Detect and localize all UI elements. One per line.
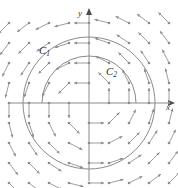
vector-arrow-tail-dot [8, 22, 11, 25]
vector-arrow-head [74, 22, 77, 25]
vector-arrow [117, 35, 131, 45]
y-axis-arrowhead [86, 8, 92, 15]
vector-arrow-tail-dot [28, 22, 31, 25]
vector-arrow [54, 22, 70, 28]
vector-arrow-tail-dot [68, 182, 71, 185]
vector-arrow [21, 62, 31, 76]
vector-arrow [74, 22, 90, 25]
vector-arrow [8, 142, 16, 157]
vector-arrow-tail-dot [48, 22, 51, 25]
vector-arrow-shaft [169, 172, 178, 183]
vector-arrow-shaft [0, 23, 9, 34]
vector-arrow [138, 32, 150, 44]
vector-arrow [160, 31, 170, 44]
vector-arrow [128, 155, 142, 165]
axes-layer [8, 8, 175, 181]
vector-arrow-tail-dot [108, 82, 111, 85]
vector-arrow [68, 142, 83, 150]
vector-arrow [74, 82, 90, 85]
vector-arrow-tail-dot [48, 122, 51, 125]
vector-arrow [24, 82, 30, 98]
vector-arrow-tail-dot [148, 62, 151, 65]
vector-arrow [141, 51, 151, 65]
vector-arrow-tail-dot [128, 62, 131, 65]
curve-label-c2-subscript: 2 [113, 70, 117, 79]
vector-arrow-tail-dot [168, 42, 171, 45]
vector-arrow-tail-dot [28, 42, 31, 45]
vector-arrow [108, 88, 111, 104]
vector-arrow-tail-dot [28, 162, 31, 165]
vector-arrow-tail-dot [88, 62, 91, 65]
vector-arrow-tail-dot [128, 142, 131, 145]
vector-arrow [168, 151, 178, 164]
vector-arrow-tail-dot [88, 162, 91, 165]
vector-arrow [28, 182, 41, 188]
vector-arrow-tail-dot [68, 42, 71, 45]
vector-arrow-head [95, 38, 98, 41]
vector-arrow-head [74, 42, 77, 45]
vector-arrow [168, 172, 178, 184]
vector-arrow [95, 38, 111, 44]
vector-arrow-tail-dot [68, 142, 71, 145]
vector-arrow-tail-dot [108, 182, 111, 185]
vector-arrow [36, 22, 51, 30]
vector-arrow [48, 162, 62, 172]
vector-arrow-tail-dot [148, 182, 151, 185]
vector-arrow-tail-dot [148, 122, 151, 125]
vector-arrow-tail-dot [128, 102, 131, 105]
vector-arrow-tail-dot [148, 102, 151, 105]
vector-arrow-tail-dot [28, 82, 31, 85]
vector-field-canvas [0, 0, 178, 188]
vector-arrow-head [151, 109, 154, 112]
vector-arrow-tail-dot [28, 102, 31, 105]
vector-arrow-tail-dot [68, 102, 71, 105]
vector-arrow-tail-dot [108, 122, 111, 125]
vector-arrow [5, 82, 11, 98]
vector-field-figure: y x C1 C2 [0, 0, 178, 188]
vector-arrow-tail-dot [108, 142, 111, 145]
vector-arrow [0, 22, 10, 34]
vector-arrow-head [68, 115, 71, 118]
vector-arrow-tail-dot [88, 122, 91, 125]
vector-arrow [168, 130, 176, 145]
vector-arrow [8, 182, 20, 188]
vector-arrow [68, 122, 80, 134]
vector-arrow-tail-dot [28, 62, 31, 65]
vector-arrow-tail-dot [8, 82, 11, 85]
vector-arrow [8, 162, 18, 175]
vector-arrow [48, 102, 51, 118]
vector-arrow-shaft [49, 183, 62, 188]
vector-arrow-head [8, 115, 11, 118]
vector-arrow [88, 122, 104, 125]
x-axis-label: x [166, 103, 170, 112]
vector-arrow-tail-dot [88, 142, 91, 145]
vector-arrow-tail-dot [108, 22, 111, 25]
vector-arrow-tail-dot [108, 62, 111, 65]
vector-arrow-tail-dot [148, 82, 151, 85]
vector-arrow [48, 182, 63, 188]
vector-arrow-head [74, 82, 77, 85]
vector-arrow-tail-dot [28, 142, 31, 145]
vector-arrow-tail-dot [168, 22, 171, 25]
vector-arrow-tail-dot [148, 162, 151, 165]
vector-arrow [128, 176, 143, 184]
vector-arrow-tail-dot [148, 142, 151, 145]
vector-arrow-tail-dot [128, 182, 131, 185]
vector-arrow [58, 82, 70, 94]
vector-arrow-head [48, 115, 51, 118]
vector-arrow [137, 14, 150, 24]
vector-arrow-tail-dot [8, 182, 11, 185]
vector-arrow-head [168, 88, 171, 91]
vector-arrow-tail-dot [68, 162, 71, 165]
vector-arrow [8, 122, 14, 138]
vector-arrow-tail-dot [168, 122, 171, 125]
vector-arrow-tail-dot [8, 142, 11, 145]
vector-arrow-tail-dot [108, 102, 111, 105]
vector-arrow-tail-dot [8, 122, 11, 125]
curve-label-c1: C1 [39, 45, 50, 56]
vector-arrow-head [101, 162, 104, 165]
vector-arrow-tail-dot [168, 162, 171, 165]
vector-arrow [68, 162, 84, 168]
vector-arrow-tail-dot [148, 42, 151, 45]
vector-arrow [148, 152, 160, 164]
